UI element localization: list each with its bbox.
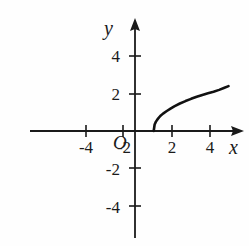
y-axis-label: y: [104, 18, 113, 38]
data-curve-sqrt: [154, 86, 229, 131]
x-tick-label--2: -2: [113, 139, 135, 156]
y-tick-label--4: -4: [94, 199, 120, 216]
graph-figure: y x O -4 -2 2 4 4 2 -2 -4: [0, 0, 249, 246]
coordinate-plane-svg: [0, 0, 249, 246]
y-tick-label-4: 4: [100, 48, 120, 65]
y-tick-label-2: 2: [100, 86, 120, 103]
x-tick-label--4: -4: [75, 139, 97, 156]
y-tick-label--2: -2: [94, 161, 120, 178]
x-tick-label-4: 4: [200, 139, 220, 156]
x-axis-label: x: [229, 137, 238, 157]
x-tick-label-2: 2: [162, 139, 182, 156]
